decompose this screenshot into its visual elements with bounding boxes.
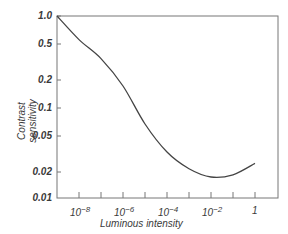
x-tick-label: 1 xyxy=(252,205,258,216)
y-tick-label: 0.01 xyxy=(12,192,52,203)
x-tick-exp: −2 xyxy=(213,205,222,214)
x-tick-base: 10 xyxy=(158,207,169,218)
x-tick-base: 1 xyxy=(252,205,258,216)
y-tick-label: 0.02 xyxy=(12,166,52,177)
x-tick-base: 10 xyxy=(70,207,81,218)
y-tick-label: 0.2 xyxy=(12,74,52,85)
sensitivity-curve xyxy=(57,16,255,177)
y-tick-label: 1.0 xyxy=(12,10,52,21)
x-tick-exp: −8 xyxy=(81,205,90,214)
y-axis-title-line2: sensitivity xyxy=(27,86,38,156)
x-tick-label: 10−8 xyxy=(70,205,90,218)
x-tick-exp: −6 xyxy=(125,205,134,214)
y-ticks xyxy=(57,16,61,172)
x-tick-label: 10−6 xyxy=(114,205,134,218)
x-tick-exp: −4 xyxy=(169,205,178,214)
x-tick-label: 10−4 xyxy=(158,205,178,218)
plot-frame xyxy=(57,16,278,198)
y-axis-title: Contrast sensitivity xyxy=(16,86,38,156)
x-ticks xyxy=(79,192,255,198)
x-axis-title: Luminous intensity xyxy=(100,218,183,229)
x-tick-base: 10 xyxy=(114,207,125,218)
y-axis-title-line1: Contrast xyxy=(16,86,27,156)
y-tick-label: 0.5 xyxy=(12,38,52,49)
x-tick-label: 10−2 xyxy=(202,205,222,218)
x-tick-base: 10 xyxy=(202,207,213,218)
